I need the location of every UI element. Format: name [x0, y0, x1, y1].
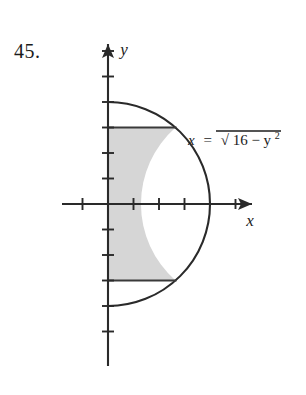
radical-sign: √: [221, 132, 230, 148]
radicand-text: 16 − y: [233, 132, 272, 148]
figure-container: 45.: [0, 0, 306, 395]
equation-equals: =: [203, 132, 211, 148]
coordinate-plot: x y x = √ 16 − y 2: [0, 0, 306, 395]
equation-annotation: x = √ 16 − y 2: [187, 130, 281, 148]
equation-line: x = √ 16 − y 2: [187, 130, 280, 148]
equation-lhs: x: [187, 132, 195, 148]
y-axis-label: y: [118, 40, 128, 59]
x-axis-label: x: [245, 211, 254, 230]
